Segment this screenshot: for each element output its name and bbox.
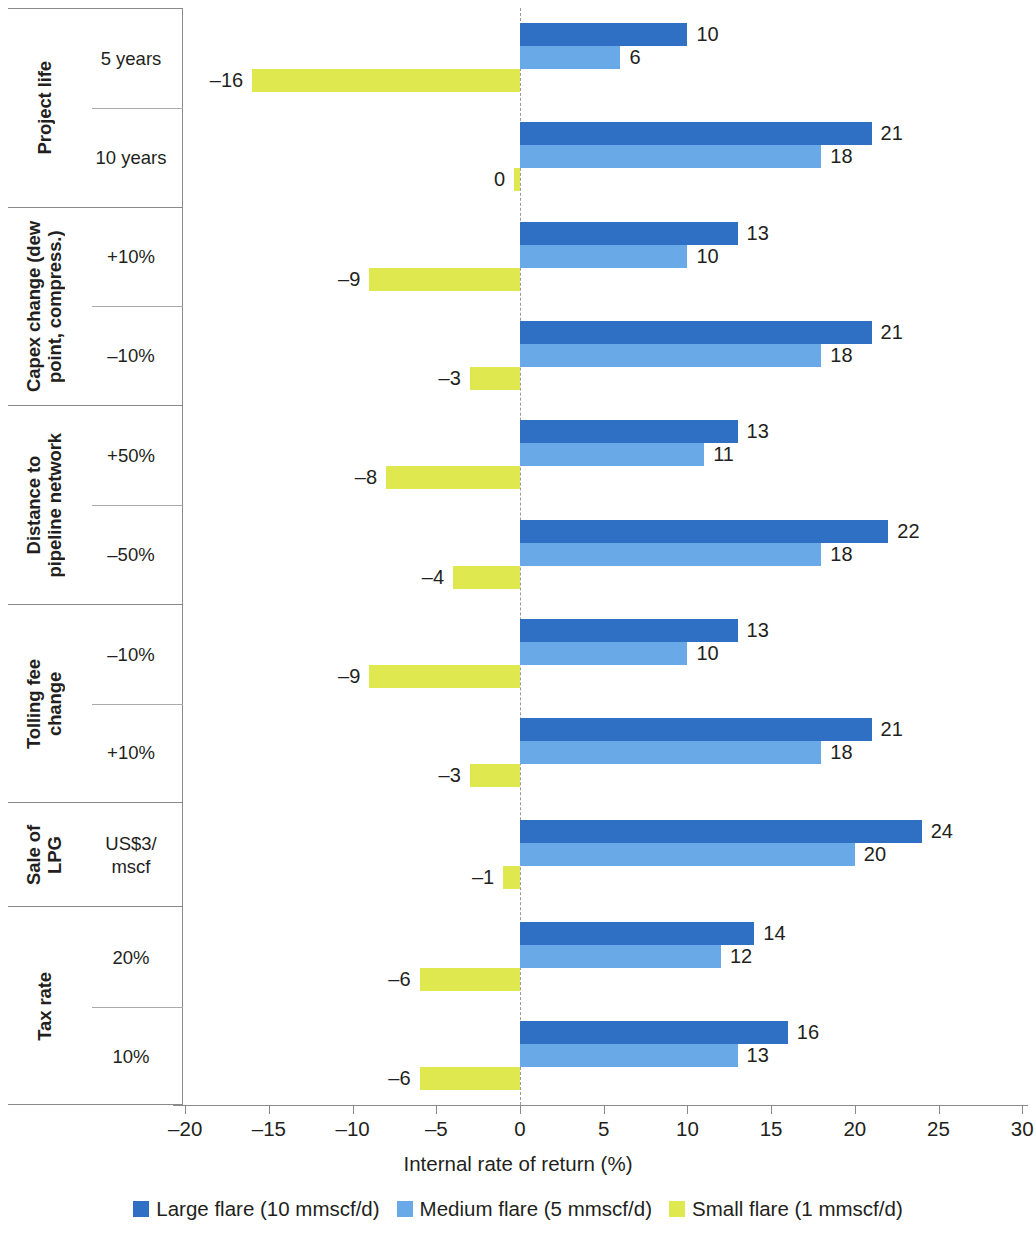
x-axis-tick — [520, 1105, 521, 1114]
category-group-title: Distance to pipeline network — [8, 406, 80, 604]
bar — [520, 222, 738, 245]
x-axis-tick-label: 10 — [676, 1117, 699, 1141]
legend-label: Large flare (10 mmscf/d) — [156, 1197, 379, 1221]
bar-value-label: 24 — [922, 820, 953, 843]
legend-item: Large flare (10 mmscf/d) — [133, 1197, 379, 1221]
category-row: +50% — [80, 406, 182, 505]
category-group: Sale of LPGUS$3/ mscf — [8, 803, 182, 907]
bar — [520, 520, 888, 543]
bar-value-label: –6 — [388, 968, 419, 991]
bar-value-label: –6 — [388, 1067, 419, 1090]
category-row: +10% — [80, 704, 182, 803]
bar-value-label: 18 — [821, 741, 852, 764]
bar-value-label: 10 — [687, 23, 718, 46]
category-group-title: Capex change (dew point, compress.) — [8, 208, 80, 406]
x-axis-tick-label: 25 — [927, 1117, 950, 1141]
bar — [369, 665, 520, 688]
category-group-title-text: Project life — [34, 61, 55, 154]
category-row-label: 5 years — [101, 47, 162, 70]
bar — [520, 741, 821, 764]
x-axis-tick-label: 0 — [514, 1117, 525, 1141]
category-row: US$3/ mscf — [80, 803, 182, 906]
x-axis-tick — [353, 1105, 354, 1114]
x-axis-tick-label: 20 — [843, 1117, 866, 1141]
x-axis-tick — [771, 1105, 772, 1114]
bar — [520, 619, 738, 642]
bar — [520, 420, 738, 443]
bar-value-label: –3 — [439, 367, 470, 390]
bar-value-label: 20 — [855, 843, 886, 866]
x-axis-tick — [269, 1105, 270, 1114]
bar-value-label: 13 — [738, 222, 769, 245]
legend-swatch-icon — [669, 1201, 685, 1217]
bar-value-label: –9 — [338, 665, 369, 688]
x-axis: –20–15–10–5051015202530 — [183, 1105, 1028, 1155]
bar-value-label: 21 — [872, 321, 903, 344]
category-group: Project life5 years10 years — [8, 9, 182, 208]
category-row: +10% — [80, 208, 182, 307]
x-axis-tick — [436, 1105, 437, 1114]
legend-label: Small flare (1 mmscf/d) — [692, 1197, 903, 1221]
bar — [520, 46, 620, 69]
bar — [386, 466, 520, 489]
x-axis-tick — [185, 1105, 186, 1114]
bar-value-label: –1 — [472, 866, 503, 889]
bar — [520, 344, 821, 367]
bar — [520, 245, 687, 268]
category-group: Tax rate20%10% — [8, 907, 182, 1106]
bar — [520, 1021, 788, 1044]
category-rows: US$3/ mscf — [80, 803, 182, 906]
category-group-title: Sale of LPG — [8, 803, 80, 906]
category-group-title-text: Tax rate — [34, 972, 55, 1041]
category-row: 10% — [80, 1007, 182, 1106]
x-axis-tick-label: –15 — [252, 1117, 286, 1141]
bar-value-label: 13 — [738, 1044, 769, 1067]
category-group-title-text: Sale of LPG — [23, 825, 65, 885]
bar — [520, 642, 687, 665]
category-group: Capex change (dew point, compress.)+10%–… — [8, 208, 182, 407]
category-row-label: +10% — [107, 245, 155, 268]
bar — [453, 566, 520, 589]
bar-value-label: 21 — [872, 122, 903, 145]
bar-value-label: –3 — [439, 764, 470, 787]
category-group-title-text: Tolling fee change — [23, 659, 65, 749]
category-row: –10% — [80, 605, 182, 704]
sensitivity-bar-chart: Project life5 years10 yearsCapex change … — [0, 0, 1036, 1238]
legend-item: Medium flare (5 mmscf/d) — [397, 1197, 652, 1221]
category-group-title: Tax rate — [8, 907, 80, 1106]
x-axis-tick-label: –20 — [168, 1117, 202, 1141]
legend-item: Small flare (1 mmscf/d) — [669, 1197, 903, 1221]
bar — [520, 718, 872, 741]
category-row-label: –10% — [107, 643, 154, 666]
category-group-title-text: Distance to pipeline network — [23, 433, 65, 577]
category-group: Tolling fee change–10%+10% — [8, 605, 182, 804]
bar-value-label: 12 — [721, 945, 752, 968]
category-row-label: 10 years — [96, 146, 167, 169]
bar — [520, 843, 855, 866]
x-axis-tick-label: –5 — [425, 1117, 448, 1141]
bar-value-label: –16 — [210, 69, 252, 92]
category-group-title-text: Capex change (dew point, compress.) — [23, 221, 65, 392]
bar-value-label: 11 — [704, 443, 734, 466]
bar — [369, 268, 520, 291]
category-row-label: –50% — [107, 543, 154, 566]
bar — [470, 367, 520, 390]
legend-swatch-icon — [397, 1201, 413, 1217]
bar — [520, 543, 821, 566]
bar-value-label: 10 — [687, 245, 718, 268]
bar-value-label: 18 — [821, 145, 852, 168]
bar-value-label: 0 — [494, 168, 514, 191]
legend-label: Medium flare (5 mmscf/d) — [420, 1197, 652, 1221]
bar — [503, 866, 520, 889]
plot-area: 106–16211801310–92118–31311–82218–41310–… — [183, 8, 1028, 1105]
bar-value-label: –4 — [422, 566, 453, 589]
bar — [520, 922, 754, 945]
bar-value-label: 10 — [687, 642, 718, 665]
x-axis-tick — [939, 1105, 940, 1114]
bar-value-label: 16 — [788, 1021, 819, 1044]
x-axis-tick — [1022, 1105, 1023, 1114]
category-row-label: 20% — [112, 946, 149, 969]
x-axis-title: Internal rate of return (%) — [0, 1152, 1036, 1176]
x-axis-line — [173, 1105, 1028, 1106]
bar — [520, 820, 922, 843]
